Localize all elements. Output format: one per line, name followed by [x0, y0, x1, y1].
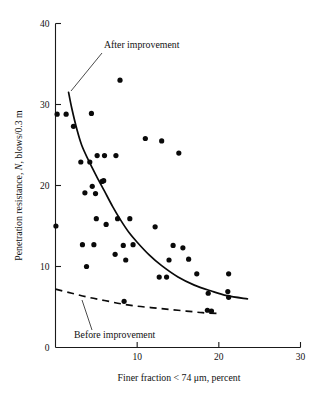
- data-point: [53, 223, 58, 228]
- data-point: [186, 257, 191, 262]
- data-point: [113, 153, 118, 158]
- data-point: [64, 112, 69, 117]
- data-point: [206, 291, 211, 296]
- data-point: [101, 178, 106, 183]
- data-point: [95, 153, 100, 158]
- data-points: [53, 78, 231, 314]
- data-point: [90, 184, 95, 189]
- data-point: [91, 242, 96, 247]
- data-point: [113, 252, 118, 257]
- y-tick-label: 10: [40, 262, 50, 272]
- x-axis-title: Finer fraction < 74 μm, percent: [118, 372, 241, 383]
- x-tick-label: 30: [296, 352, 306, 362]
- axis-titles: Finer fraction < 74 μm, percentPenetrati…: [13, 110, 241, 383]
- data-point: [80, 242, 85, 247]
- data-point: [130, 242, 135, 247]
- y-tick-label: 30: [40, 100, 50, 110]
- data-point: [209, 308, 214, 313]
- data-point: [159, 138, 164, 143]
- curve-annotations: After improvementBefore improvement: [71, 39, 180, 340]
- data-point: [115, 216, 120, 221]
- data-point: [82, 190, 87, 195]
- annotation-label: Before improvement: [74, 329, 156, 340]
- data-point: [171, 243, 176, 248]
- data-point: [102, 153, 107, 158]
- data-point: [78, 159, 83, 164]
- annotation-leader-line: [82, 300, 92, 330]
- data-point: [157, 274, 162, 279]
- data-point: [166, 257, 171, 262]
- curve-before-improvement: [56, 289, 219, 313]
- data-point: [71, 124, 76, 129]
- axes: 010203040102030: [40, 19, 306, 362]
- y-tick-label: 0: [45, 343, 50, 353]
- x-tick-label: 10: [132, 352, 142, 362]
- data-point: [225, 289, 230, 294]
- data-point: [153, 224, 158, 229]
- data-point: [180, 245, 185, 250]
- data-point: [87, 159, 92, 164]
- data-point: [176, 151, 181, 156]
- data-point: [93, 191, 98, 196]
- data-point: [89, 111, 94, 116]
- y-tick-label: 20: [40, 181, 50, 191]
- data-point: [84, 264, 89, 269]
- annotation-label: After improvement: [104, 39, 180, 50]
- data-point: [121, 243, 126, 248]
- data-point: [226, 295, 231, 300]
- data-point: [122, 299, 127, 304]
- data-point: [55, 112, 60, 117]
- annotation-leader-line: [71, 53, 102, 91]
- x-tick-label: 20: [214, 352, 224, 362]
- chart-figure: 010203040102030 After improvementBefore …: [0, 0, 321, 400]
- data-point: [123, 257, 128, 262]
- data-point: [164, 274, 169, 279]
- data-point: [226, 271, 231, 276]
- scatter-plot: 010203040102030 After improvementBefore …: [0, 0, 321, 400]
- data-point: [127, 216, 132, 221]
- data-point: [104, 222, 109, 227]
- data-point: [143, 136, 148, 141]
- y-axis-title: Penetration resistance, N, blows/0.3 m: [13, 110, 24, 261]
- data-point: [94, 216, 99, 221]
- data-point: [194, 271, 199, 276]
- data-point: [117, 78, 122, 83]
- y-tick-label: 40: [40, 19, 50, 29]
- fitted-curves: [56, 92, 248, 313]
